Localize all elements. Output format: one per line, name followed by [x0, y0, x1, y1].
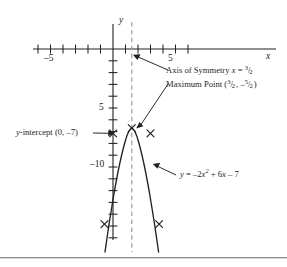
max-x-numerator: 3 — [227, 78, 230, 85]
axis-of-symmetry-annotation: Axis of Symmetry x = 3/2 — [166, 66, 254, 75]
axis-of-symmetry-fraction: 3/2 — [245, 66, 254, 75]
axis-of-symmetry-equals: = — [235, 65, 244, 75]
max-y-denominator: 2 — [249, 82, 252, 89]
maximum-point-leader — [136, 84, 168, 129]
aos-frac-numerator: 3 — [245, 64, 248, 71]
equation-tail: – 7 — [226, 169, 239, 179]
y-intercept-annotation: y-intercept (0, –7) — [16, 128, 78, 137]
y-intercept-text: -intercept (0, –7) — [20, 127, 78, 137]
x-tick-label-minus5: –5 — [44, 54, 54, 64]
x-axis-label: x — [266, 52, 270, 62]
equation-mid: + 6 — [209, 169, 222, 179]
maximum-point-separator: , – — [236, 79, 245, 89]
equation-x-squared: x2 — [202, 169, 209, 179]
y-tick-label-minus10: –10 — [90, 160, 104, 170]
equation-annotation: y = –2x2 + 6x – 7 — [180, 168, 239, 178]
maximum-point-text: Maximum Point ( — [166, 79, 227, 89]
y-axis-label: y — [119, 16, 123, 26]
x-tick-label-5: 5 — [168, 54, 173, 64]
maximum-point-close: ) — [254, 79, 257, 89]
axis-of-symmetry-leader — [133, 54, 168, 70]
y-tick-label-minus5: 5 — [99, 103, 104, 113]
max-x-denominator: 2 — [232, 82, 235, 89]
axis-of-symmetry-text: Axis of Symmetry — [166, 65, 232, 75]
quadratic-graph-figure: –5 5 5 –10 x y Axis of Symmetry x = 3/2 … — [0, 0, 287, 267]
figure-bottom-rule-shadow — [0, 258, 287, 259]
max-y-numerator: 5 — [245, 78, 248, 85]
equation-lhs: = –2 — [184, 169, 202, 179]
aos-frac-denominator: 2 — [249, 68, 252, 75]
maximum-point-x-fraction: 3/2 — [227, 80, 236, 89]
equation-leader — [153, 163, 176, 175]
maximum-point-y-fraction: 5/2 — [245, 80, 254, 89]
maximum-point-annotation: Maximum Point (3/2, –5/2) — [166, 80, 257, 89]
